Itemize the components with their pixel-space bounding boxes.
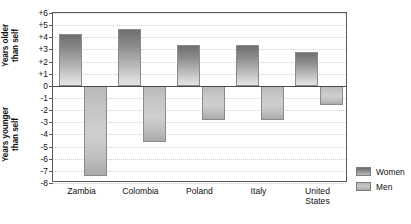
y-axis-tick-label: -3 [26, 117, 48, 127]
y-axis-tick-label: +1 [26, 69, 48, 79]
x-axis-category-label-line: Zambia [67, 186, 96, 196]
y-axis-tick-label: +3 [26, 44, 48, 54]
y-axis-tick-label: +2 [26, 57, 48, 67]
y-axis-tick-label: +4 [26, 32, 48, 42]
x-axis-category-label-line: Poland [186, 186, 213, 196]
y-axis-title-upper-line2: than self [10, 15, 20, 77]
bar-men-colombia [143, 86, 166, 142]
y-axis-tick-label: 0 [26, 81, 48, 91]
y-axis-tick-label: -6 [26, 154, 48, 164]
x-axis-category-label-line: Italy [251, 186, 267, 196]
legend-swatch-women [356, 167, 371, 176]
y-axis-tick-label: -7 [26, 166, 48, 176]
x-axis-category-label: Poland [170, 186, 229, 196]
chart-figure: Years older than self Years younger than… [0, 0, 411, 224]
y-axis-tick-label: -2 [26, 105, 48, 115]
x-axis-category-label-line: Colombia [122, 186, 158, 196]
chart-legend: WomenMen [356, 165, 411, 195]
bar-group [230, 13, 289, 181]
y-axis-title-lower-line1: Years younger [1, 107, 10, 162]
y-axis-tick-label: -4 [26, 129, 48, 139]
x-axis-category-label: Colombia [111, 186, 170, 196]
bar-men-poland [202, 86, 225, 120]
gridline [53, 183, 346, 184]
bar-women-zambia [59, 34, 82, 86]
legend-label-women: Women [376, 167, 405, 177]
x-axis-category-label-line: United [305, 186, 330, 196]
bar-women-italy [236, 45, 259, 86]
bar-group [112, 13, 171, 181]
y-axis-tick-label: -5 [26, 142, 48, 152]
bar-group [53, 13, 112, 181]
plot-area: +6+5+4+3+2+10-1-2-3-4-5-6-7-8 [53, 13, 346, 181]
zero-baseline [53, 86, 346, 87]
y-axis-tick [49, 183, 53, 184]
bar-men-italy [261, 86, 284, 120]
legend-swatch-men [356, 182, 371, 191]
y-axis-tick-label: +5 [26, 20, 48, 30]
x-axis-category-label-line: States [288, 196, 347, 206]
y-axis-title-lower-line2: than self [10, 101, 20, 169]
x-axis-category-label: Italy [229, 186, 288, 196]
bar-group [171, 13, 230, 181]
x-axis-category-label: Zambia [52, 186, 111, 196]
bar-women-colombia [118, 29, 141, 86]
x-axis-category-label: UnitedStates [288, 186, 347, 206]
y-axis-tick-label: -8 [26, 178, 48, 188]
legend-label-men: Men [376, 182, 392, 192]
plot-frame: +6+5+4+3+2+10-1-2-3-4-5-6-7-8 [52, 12, 347, 182]
legend-item-men: Men [356, 180, 411, 193]
y-axis-tick-label: +6 [26, 8, 48, 18]
bar-men-zambia [84, 86, 107, 176]
y-axis-title-lower: Years younger than self [1, 101, 20, 169]
y-axis-title-upper-line1: Years older [1, 24, 10, 67]
bar-men-united-states [320, 86, 343, 105]
y-axis-title-upper: Years older than self [1, 15, 20, 77]
bar-women-poland [177, 45, 200, 86]
bar-women-united-states [295, 52, 318, 86]
bar-group [289, 13, 348, 181]
legend-item-women: Women [356, 165, 411, 178]
y-axis-tick-label: -1 [26, 93, 48, 103]
